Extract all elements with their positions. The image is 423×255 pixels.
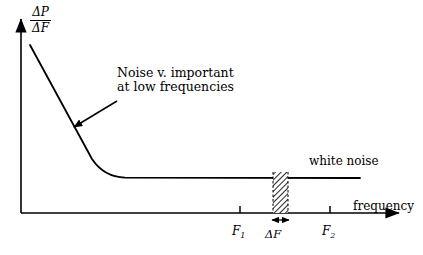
noise-spectrum-figure: ΔP ΔF Noise v. important at low frequenc… <box>0 0 423 255</box>
tick-label-f2-subscript: 2 <box>330 231 335 240</box>
annotation-arrow <box>74 101 117 127</box>
curve-annotation: Noise v. important at low frequencies <box>117 66 234 94</box>
curve-annotation-line-2: at low frequencies <box>117 80 234 94</box>
delta-f-band <box>273 172 288 213</box>
y-axis-numerator: ΔP <box>30 6 51 21</box>
plot-canvas <box>0 0 423 255</box>
x-axis-label: frequency <box>353 200 414 213</box>
y-axis-denominator: ΔF <box>30 21 51 35</box>
curve-annotation-line-1: Noise v. important <box>117 66 234 80</box>
tick-label-f1: F1 <box>232 225 245 241</box>
tick-label-f2: F2 <box>322 225 335 241</box>
delta-f-label: ΔF <box>265 228 281 241</box>
y-axis-label: ΔP ΔF <box>30 6 51 36</box>
tick-label-f1-subscript: 1 <box>240 231 245 240</box>
white-noise-label: white noise <box>309 155 379 168</box>
